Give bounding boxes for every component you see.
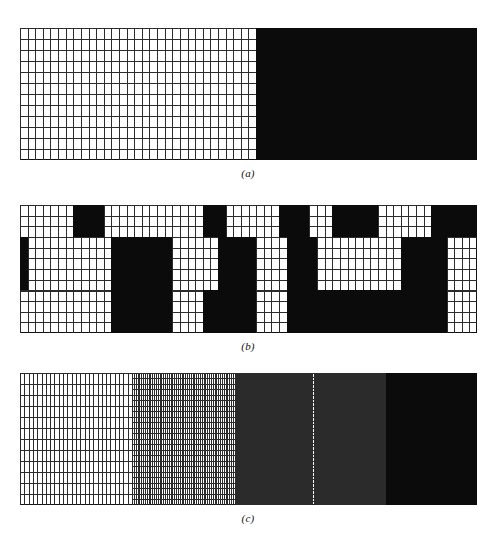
panel-c-zone-fine bbox=[132, 373, 235, 505]
panel-c-zone-coarse bbox=[20, 373, 132, 505]
panel-a bbox=[20, 28, 477, 160]
panel-b-solid-block bbox=[111, 237, 172, 290]
panel-b-solid-block bbox=[111, 290, 172, 333]
panel-b-solid-block bbox=[20, 237, 28, 290]
panel-a-caption: (a) bbox=[0, 167, 496, 179]
panel-c-zone-finer bbox=[235, 373, 320, 505]
panel-b-solid-block bbox=[454, 205, 477, 237]
panel-a-solid-region bbox=[256, 28, 477, 160]
panel-b-solid-block bbox=[203, 290, 256, 333]
panel-c-major-rows bbox=[132, 373, 235, 505]
panel-c-major-rows bbox=[319, 373, 385, 505]
panel-c-zone-solid bbox=[386, 373, 477, 505]
panel-b-solid-block bbox=[287, 290, 447, 333]
panel-b-solid-block bbox=[203, 205, 226, 237]
panel-c bbox=[20, 373, 477, 505]
panel-b bbox=[20, 205, 477, 333]
panel-b-solid-block bbox=[287, 237, 317, 290]
panel-b-solid-block bbox=[332, 205, 378, 237]
panel-a-grid bbox=[20, 28, 256, 160]
figure-container: (a) (b) (c) bbox=[0, 0, 496, 535]
panel-c-zone-finest bbox=[319, 373, 385, 505]
panel-b-solid-block bbox=[218, 237, 256, 290]
panel-c-caption: (c) bbox=[0, 512, 496, 524]
panel-b-caption: (b) bbox=[0, 340, 496, 352]
panel-c-major-rows bbox=[20, 373, 132, 505]
panel-b-solid-block bbox=[279, 205, 309, 237]
panel-c-major-rows bbox=[235, 373, 320, 505]
panel-b-solid-block bbox=[431, 205, 454, 237]
panel-b-solid-block bbox=[401, 237, 447, 290]
panel-b-solid-block bbox=[73, 205, 103, 237]
